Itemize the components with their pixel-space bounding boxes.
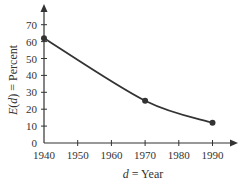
y-tick-label: 0 [32, 137, 38, 149]
x-tick-label: 1950 [67, 149, 90, 161]
x-tick-label: 1940 [33, 149, 56, 161]
y-tick-label: 60 [26, 36, 38, 48]
y-tick-label: 30 [26, 86, 38, 98]
y-axis-title: E(d) = Percent [6, 44, 20, 116]
x-tick-label: 1960 [100, 149, 123, 161]
data-points [41, 35, 216, 126]
y-tick-label: 10 [26, 120, 38, 132]
x-tick-label: 1970 [134, 149, 157, 161]
data-curve [44, 38, 213, 123]
y-tick-label: 40 [26, 69, 38, 81]
data-point [41, 35, 47, 41]
y-tick-label: 70 [26, 19, 38, 31]
x-tick-label: 1990 [202, 149, 225, 161]
x-axis-arrow-icon [230, 140, 238, 147]
chart: 194019501960197019801990010203040506070 … [0, 0, 243, 184]
axes [41, 4, 239, 147]
x-axis-title: d = Year [123, 167, 163, 181]
y-tick-label: 20 [26, 103, 38, 115]
y-axis-arrow-icon [41, 4, 48, 12]
data-point [210, 120, 216, 126]
x-tick-label: 1980 [168, 149, 191, 161]
data-point [142, 98, 148, 104]
y-tick-label: 50 [26, 53, 38, 65]
